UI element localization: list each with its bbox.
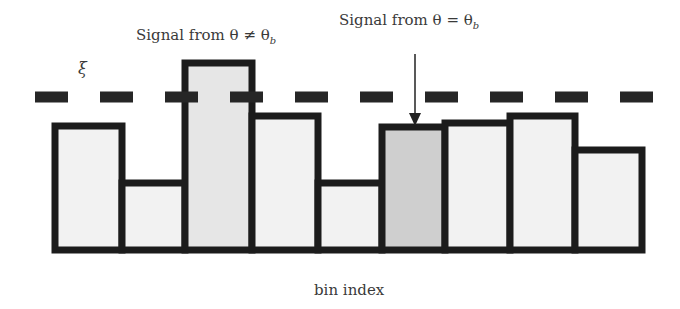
histogram-bar bbox=[252, 116, 318, 250]
histogram-bar bbox=[185, 63, 252, 250]
histogram-bars bbox=[55, 63, 642, 250]
histogram-bar bbox=[122, 183, 185, 250]
annotation-text: Signal from θ = θ bbox=[339, 11, 473, 29]
threshold-label: ξ bbox=[78, 59, 87, 78]
annotation-subscript: b bbox=[473, 20, 479, 31]
annotation-signal-match: Signal from θ = θb bbox=[339, 11, 479, 31]
histogram-bar bbox=[55, 126, 122, 250]
histogram-bar bbox=[318, 183, 382, 250]
histogram-plot bbox=[0, 0, 680, 309]
annotation-subscript: b bbox=[270, 35, 276, 46]
arrow-icon bbox=[409, 54, 421, 126]
annotation-signal-other: Signal from θ ≠ θb bbox=[136, 26, 276, 46]
histogram-figure: Signal from θ ≠ θb Signal from θ = θb ξ … bbox=[0, 0, 680, 309]
histogram-bar bbox=[382, 127, 445, 250]
histogram-bar bbox=[575, 150, 642, 250]
histogram-bar bbox=[510, 116, 575, 250]
annotation-text: Signal from θ ≠ θ bbox=[136, 26, 270, 44]
histogram-bar bbox=[445, 123, 510, 250]
x-axis-label: bin index bbox=[314, 281, 384, 299]
